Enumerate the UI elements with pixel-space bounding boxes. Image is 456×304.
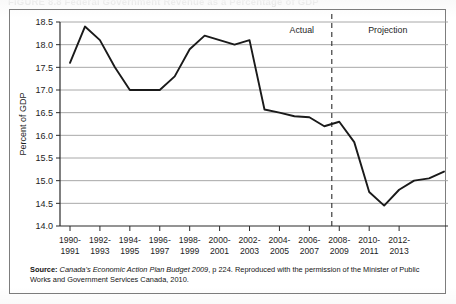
x-axis-tick-label-bottom: 2013	[390, 246, 409, 256]
x-axis-tick-label-top: 2008-	[328, 235, 350, 245]
y-axis-tick-label: 14.5	[35, 199, 53, 209]
x-axis-tick-label-bottom: 2009	[330, 246, 349, 256]
y-axis-tick-label: 16.5	[35, 108, 53, 118]
x-axis-ticks-group	[70, 226, 399, 231]
source-label: Source:	[30, 265, 58, 274]
x-axis-tick-label-top: 1990-	[59, 235, 81, 245]
y-axis-tick-label: 15.5	[35, 153, 53, 163]
x-axis-tick-label-top: 1992-	[89, 235, 111, 245]
x-axis-tick-label-top: 2010-	[358, 235, 380, 245]
gridlines-group	[60, 22, 448, 226]
y-axis-tick-label: 17.0	[35, 85, 53, 95]
x-axis-tick-label-top: 2012-	[388, 235, 410, 245]
y-axis-tick-label: 16.0	[35, 131, 53, 141]
x-axis-tick-label-top: 2004-	[268, 235, 290, 245]
projection-region-label: Projection	[368, 25, 407, 35]
x-axis-tick-label-top: 2002-	[239, 235, 261, 245]
x-axis-tick-label-top: 2006-	[298, 235, 320, 245]
source-title: Canada's Economic Action Plan Budget 200…	[60, 265, 209, 274]
actual-region-label: Actual	[290, 25, 314, 35]
x-axis-tick-label-top: 1994-	[119, 235, 141, 245]
source-note: Source: Canada's Economic Action Plan Bu…	[30, 265, 438, 286]
y-axis-tick-label: 18.0	[35, 40, 53, 50]
x-axis-tick-label-bottom: 2005	[270, 246, 289, 256]
x-axis-tick-label-bottom: 1997	[150, 246, 169, 256]
y-axis-tick-label: 17.5	[35, 63, 53, 73]
x-axis-tick-label-bottom: 1991	[60, 246, 79, 256]
x-axis-tick-label-bottom: 2011	[360, 246, 379, 256]
revenue-line-chart: 14.014.515.015.516.016.517.017.518.018.5…	[0, 0, 456, 262]
y-axis-tick-label: 15.0	[35, 176, 53, 186]
x-axis-tick-label-bottom: 2003	[240, 246, 259, 256]
x-axis-tick-label-bottom: 1995	[120, 246, 139, 256]
y-axis-tick-labels: 14.014.515.015.516.016.517.017.518.018.5	[35, 17, 53, 231]
y-axis-tick-label: 14.0	[35, 221, 53, 231]
x-axis-tick-labels: 1990-19911992-19931994-19951996-19971998…	[59, 235, 410, 256]
x-axis-tick-label-bottom: 1999	[180, 246, 199, 256]
y-axis-tick-label: 18.5	[35, 17, 53, 27]
x-axis-tick-label-top: 1998-	[179, 235, 201, 245]
x-axis-tick-label-bottom: 2007	[300, 246, 319, 256]
revenue-data-line	[70, 27, 444, 206]
x-axis-tick-label-top: 2000-	[209, 235, 231, 245]
chart-plot-container: 14.014.515.015.516.016.517.017.518.018.5…	[0, 0, 456, 262]
y-axis-title: Percent of GDP	[18, 92, 28, 155]
x-axis-tick-label-bottom: 1993	[90, 246, 109, 256]
x-axis-tick-label-bottom: 2001	[210, 246, 229, 256]
x-axis-tick-label-top: 1996-	[149, 235, 171, 245]
